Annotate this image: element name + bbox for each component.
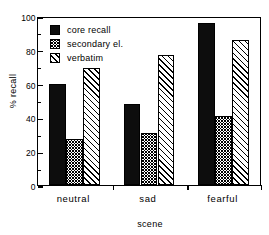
bar-chart-figure: % recall scene 020406080100 neutralsadfe… — [0, 0, 269, 235]
legend-item-core-recall: core recall — [50, 23, 123, 36]
diagonal-hatch-swatch — [50, 53, 60, 63]
bar-sad-core-recall — [124, 104, 141, 185]
legend-label: core recall — [67, 25, 111, 35]
bar-fearful-core-recall — [198, 23, 215, 185]
y-tick-label: 0 — [31, 182, 36, 192]
crosshatch-swatch — [50, 39, 60, 49]
y-axis-title: % recall — [8, 56, 18, 126]
bar-neutral-verbatim — [83, 68, 100, 185]
bar-sad-secondary-el — [141, 133, 158, 185]
x-tick-mark — [187, 185, 188, 190]
y-tick-label: 20 — [26, 148, 35, 158]
bar-fearful-verbatim — [232, 40, 249, 185]
x-group-label-neutral: neutral — [57, 193, 90, 204]
y-tick-label: 40 — [26, 114, 35, 124]
bar-fearful-secondary-el — [215, 116, 232, 185]
solid-black-swatch — [50, 25, 60, 35]
bar-neutral-core-recall — [49, 84, 66, 185]
y-tick-mark — [38, 186, 43, 187]
legend-label: secondary el. — [67, 39, 123, 49]
x-tick-mark — [113, 185, 114, 190]
y-tick-label: 80 — [26, 47, 35, 57]
legend-item-secondary-el: secondary el. — [50, 37, 123, 50]
y-tick-label: 100 — [21, 13, 35, 23]
x-group-label-fearful: fearful — [207, 193, 238, 204]
y-tick-label: 60 — [26, 81, 35, 91]
x-tick-mark — [261, 185, 262, 190]
bar-sad-verbatim — [158, 55, 175, 185]
legend-item-verbatim: verbatim — [50, 51, 123, 64]
chart-legend: core recallsecondary el.verbatim — [50, 23, 123, 65]
x-group-label-sad: sad — [139, 193, 156, 204]
legend-label: verbatim — [67, 53, 103, 63]
x-axis-title: scene — [36, 219, 264, 229]
bar-neutral-secondary-el — [66, 139, 83, 185]
